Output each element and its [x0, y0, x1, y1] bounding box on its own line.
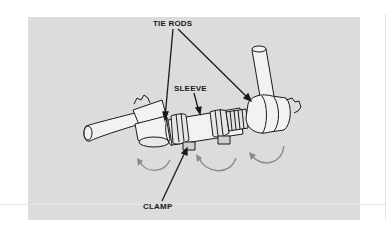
sleeve-label: SLEEVE	[174, 84, 207, 93]
rotation-arrow-icon	[252, 146, 284, 163]
right-tie-rod-end	[246, 46, 301, 134]
threaded-section	[226, 109, 248, 131]
left-tie-rod-end	[84, 95, 170, 147]
tie-rods-label: TIE RODS	[153, 19, 192, 28]
rotation-arrows	[137, 146, 284, 171]
tie-rod-illustration	[0, 0, 387, 228]
rotation-arrow-icon	[199, 158, 236, 171]
clamp-label: CLAMP	[143, 202, 172, 211]
rotation-arrow-icon	[140, 160, 170, 170]
